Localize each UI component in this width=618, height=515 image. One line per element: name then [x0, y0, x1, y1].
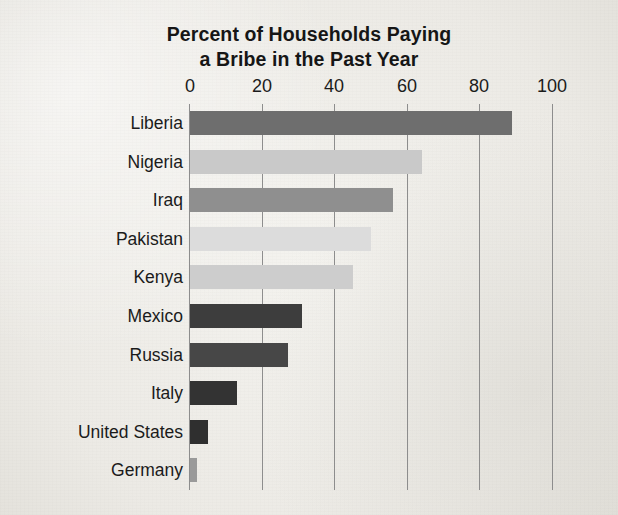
bar-germany	[190, 458, 197, 482]
bar-pakistan	[190, 227, 371, 251]
x-axis-tick-labels: 0 20 40 60 80 100	[0, 76, 618, 98]
bar-row-pakistan: Pakistan	[0, 220, 618, 259]
x-tick-0: 0	[185, 76, 195, 97]
category-label-nigeria: Nigeria	[128, 143, 183, 182]
bar-kenya	[190, 265, 353, 289]
category-label-russia: Russia	[130, 336, 184, 375]
category-label-mexico: Mexico	[128, 297, 183, 336]
bar-row-united-states: United States	[0, 413, 618, 452]
bar-row-italy: Italy	[0, 374, 618, 413]
category-label-liberia: Liberia	[130, 104, 183, 143]
chart-page: Percent of Households Paying a Bribe in …	[0, 0, 618, 515]
bar-rows: Liberia Nigeria Iraq Pakistan Kenya Mexi	[0, 104, 618, 490]
bar-russia	[190, 343, 288, 367]
bar-row-kenya: Kenya	[0, 258, 618, 297]
category-label-united-states: United States	[78, 413, 183, 452]
bar-liberia	[190, 111, 512, 135]
category-label-germany: Germany	[111, 451, 183, 490]
category-label-kenya: Kenya	[133, 258, 183, 297]
bar-row-liberia: Liberia	[0, 104, 618, 143]
category-label-pakistan: Pakistan	[116, 220, 183, 259]
bar-row-russia: Russia	[0, 336, 618, 375]
x-tick-100: 100	[537, 76, 567, 97]
category-label-iraq: Iraq	[153, 181, 183, 220]
bar-row-nigeria: Nigeria	[0, 143, 618, 182]
category-label-italy: Italy	[151, 374, 183, 413]
bar-row-germany: Germany	[0, 451, 618, 490]
bar-row-iraq: Iraq	[0, 181, 618, 220]
plot-area: 0 20 40 60 80 100 Liberia Nigeria Iraq	[0, 0, 618, 515]
x-tick-40: 40	[324, 76, 344, 97]
bar-mexico	[190, 304, 302, 328]
bar-nigeria	[190, 150, 422, 174]
x-tick-20: 20	[252, 76, 272, 97]
bar-italy	[190, 381, 237, 405]
bar-united-states	[190, 420, 208, 444]
bar-iraq	[190, 188, 393, 212]
bar-row-mexico: Mexico	[0, 297, 618, 336]
x-tick-60: 60	[397, 76, 417, 97]
x-tick-80: 80	[469, 76, 489, 97]
